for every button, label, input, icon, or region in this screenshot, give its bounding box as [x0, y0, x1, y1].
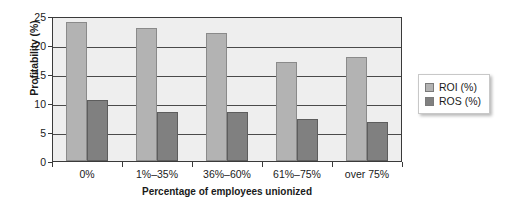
x-axis-tick-mark	[192, 162, 193, 167]
bar-roi	[206, 33, 227, 161]
bar-roi	[66, 22, 87, 161]
bar-roi	[276, 62, 297, 161]
x-axis-tick-mark	[402, 162, 403, 167]
legend-item-label: ROS (%)	[439, 95, 481, 107]
y-axis-tick-label: 10	[24, 99, 46, 110]
bar-ros	[297, 119, 318, 161]
bar-ros	[87, 100, 108, 161]
y-axis-tick-label: 20	[24, 41, 46, 52]
y-axis-tick-label: 0	[24, 157, 46, 168]
bar-roi	[346, 57, 367, 161]
bar-ros	[227, 112, 248, 161]
x-axis-category-label: 61%–75%	[273, 168, 321, 180]
legend-item[interactable]: ROI (%)	[425, 80, 481, 94]
x-axis-tick-mark	[122, 162, 123, 167]
legend-swatch-icon	[425, 97, 434, 106]
x-axis-category-label: 36%–60%	[203, 168, 251, 180]
x-axis-title: Percentage of employees unionized	[52, 186, 402, 197]
x-axis-category-labels: 0%1%–35%36%–60%61%–75%over 75%	[52, 168, 402, 184]
bar-roi	[136, 28, 157, 161]
legend-swatch-icon	[425, 83, 434, 92]
x-axis-category-label: over 75%	[345, 168, 389, 180]
y-axis-tick-label: 5	[24, 128, 46, 139]
x-axis-category-label: 0%	[79, 168, 94, 180]
y-axis-tick-label: 25	[24, 12, 46, 23]
x-axis-tick-mark	[332, 162, 333, 167]
y-axis-tick-label: 15	[24, 70, 46, 81]
chart-legend: ROI (%)ROS (%)	[418, 74, 490, 114]
legend-item-label: ROI (%)	[439, 81, 477, 93]
bar-ros	[367, 122, 388, 161]
x-axis-category-label: 1%–35%	[136, 168, 178, 180]
x-axis-tick-mark	[52, 162, 53, 167]
legend-item[interactable]: ROS (%)	[425, 94, 481, 108]
x-axis-tick-mark	[262, 162, 263, 167]
bar-ros	[157, 112, 178, 161]
gridline	[53, 47, 401, 48]
bar-chart-figure: Profitability (%) 0510152025 0%1%–35%36%…	[0, 0, 507, 205]
y-axis-tick-labels: 0510152025	[20, 0, 46, 205]
plot-area	[52, 17, 402, 162]
